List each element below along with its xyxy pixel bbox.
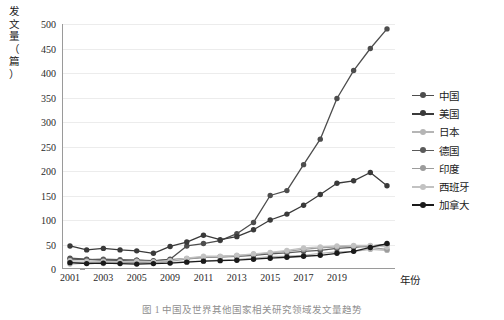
data-point — [67, 243, 72, 248]
data-point — [384, 241, 389, 246]
data-point — [268, 193, 273, 198]
data-point — [301, 254, 306, 259]
data-point — [251, 227, 256, 232]
x-axis-tick-label: 2005 — [127, 272, 147, 283]
legend-swatch-icon — [412, 90, 434, 100]
data-point — [251, 220, 256, 225]
y-axis-title-char: （ — [4, 44, 24, 57]
y-axis-tick-label: 450 — [41, 43, 56, 54]
series-line — [70, 172, 387, 253]
x-axis-tick-labels: 200120032005200920112013201520172019 — [62, 272, 395, 288]
chart-root: 发 文 量 （ 篇 ） 0501001502002503003504004505… — [0, 0, 504, 320]
data-point — [268, 256, 273, 261]
y-axis-title-char: 篇 — [4, 56, 24, 69]
x-axis-tick-label: 2017 — [294, 272, 314, 283]
x-axis-tick-label: 2001 — [60, 272, 80, 283]
data-point — [334, 243, 339, 248]
legend-item-西班牙[interactable]: 西班牙 — [412, 177, 500, 195]
legend-label: 中国 — [439, 88, 459, 103]
data-point — [151, 251, 156, 256]
data-point — [351, 249, 356, 254]
y-axis-tick-label: 250 — [41, 141, 56, 152]
legend-label: 美国 — [439, 106, 459, 121]
data-point — [167, 244, 172, 249]
y-axis-tick-mark — [80, 269, 85, 270]
data-point — [251, 251, 256, 256]
data-point — [384, 26, 389, 31]
figure-caption: 图 1 中国及世界其他国家相关研究领域发文量趋势 — [0, 302, 504, 316]
y-axis-tick-label: 300 — [41, 117, 56, 128]
data-point — [251, 257, 256, 262]
y-axis-tick-label: 50 — [46, 239, 56, 250]
x-axis-tick-label: 2003 — [93, 272, 113, 283]
data-point — [234, 253, 239, 258]
legend-swatch-icon — [412, 163, 434, 173]
data-point — [184, 239, 189, 244]
data-point — [368, 46, 373, 51]
x-axis-tick-label: 2013 — [227, 272, 247, 283]
data-point — [201, 232, 206, 237]
data-point — [151, 261, 156, 266]
data-point — [318, 192, 323, 197]
x-axis-tick-label: 2019 — [327, 272, 347, 283]
series-西班牙 — [67, 243, 389, 265]
legend-item-德国[interactable]: 德国 — [412, 141, 500, 159]
data-point — [268, 217, 273, 222]
x-axis-tick-label: 2009 — [160, 272, 180, 283]
series-layer — [62, 24, 395, 269]
data-point — [201, 254, 206, 259]
legend-label: 西班牙 — [439, 179, 469, 194]
y-axis-title-char: ） — [4, 69, 24, 82]
legend-item-美国[interactable]: 美国 — [412, 104, 500, 122]
legend-item-印度[interactable]: 印度 — [412, 159, 500, 177]
data-point — [301, 245, 306, 250]
data-point — [301, 203, 306, 208]
legend-label: 加拿大 — [439, 197, 469, 212]
series-中国 — [67, 26, 389, 264]
data-point — [201, 258, 206, 263]
series-line — [70, 29, 387, 261]
data-point — [101, 246, 106, 251]
data-point — [334, 251, 339, 256]
data-point — [117, 261, 122, 266]
data-point — [334, 96, 339, 101]
data-point — [67, 260, 72, 265]
series-加拿大 — [67, 241, 389, 267]
data-point — [318, 244, 323, 249]
y-axis-tick-label: 500 — [41, 19, 56, 30]
legend-swatch-icon — [412, 145, 434, 155]
data-point — [368, 245, 373, 250]
data-point — [384, 183, 389, 188]
y-axis-tick-label: 350 — [41, 92, 56, 103]
data-point — [117, 247, 122, 252]
data-point — [284, 211, 289, 216]
legend-label: 日本 — [439, 124, 459, 139]
data-point — [84, 247, 89, 252]
legend: 中国美国日本德国印度西班牙加拿大 — [412, 86, 500, 214]
data-point — [101, 260, 106, 265]
data-point — [368, 170, 373, 175]
y-axis-title-char: 发 — [4, 6, 24, 19]
data-point — [334, 181, 339, 186]
legend-item-日本[interactable]: 日本 — [412, 123, 500, 141]
legend-label: 德国 — [439, 143, 459, 158]
data-point — [351, 243, 356, 248]
y-axis-tick-label: 100 — [41, 215, 56, 226]
legend-item-加拿大[interactable]: 加拿大 — [412, 196, 500, 214]
y-axis-tick-label: 150 — [41, 190, 56, 201]
legend-swatch-icon — [412, 108, 434, 118]
data-point — [351, 68, 356, 73]
data-point — [201, 241, 206, 246]
series-美国 — [67, 170, 389, 256]
legend-label: 印度 — [439, 161, 459, 176]
legend-swatch-icon — [412, 200, 434, 210]
data-point — [234, 234, 239, 239]
data-point — [217, 237, 222, 242]
data-point — [217, 258, 222, 263]
y-axis-tick-label: 0 — [51, 264, 56, 275]
data-point — [284, 188, 289, 193]
data-point — [351, 178, 356, 183]
legend-item-中国[interactable]: 中国 — [412, 86, 500, 104]
y-axis-title-char: 文 — [4, 19, 24, 32]
data-point — [234, 257, 239, 262]
